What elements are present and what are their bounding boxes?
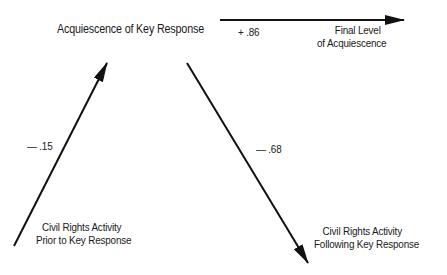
node-prior-activity: Civil Rights Activity Prior to Key Respo… — [36, 221, 131, 247]
arrow-key-to-following — [187, 63, 308, 263]
node-final-level-line2: of Acquiescence — [317, 37, 386, 50]
node-prior-line1: Civil Rights Activity — [36, 221, 131, 234]
node-final-level: Final Level of Acquiescence — [317, 24, 386, 50]
node-prior-line2: Prior to Key Response — [36, 234, 131, 247]
edge-label-prior-to-key: — .15 — [27, 140, 53, 153]
arrow-prior-to-key — [14, 63, 107, 246]
edge-label-key-to-final: + .86 — [238, 26, 259, 39]
node-key-response: Acquiescence of Key Response — [57, 23, 204, 36]
node-final-level-line1: Final Level — [317, 24, 386, 37]
edge-label-key-to-following: — .68 — [256, 143, 282, 156]
node-following-line2: Following Key Response — [314, 238, 419, 251]
node-following-activity: Civil Rights Activity Following Key Resp… — [314, 225, 419, 251]
node-following-line1: Civil Rights Activity — [314, 225, 419, 238]
